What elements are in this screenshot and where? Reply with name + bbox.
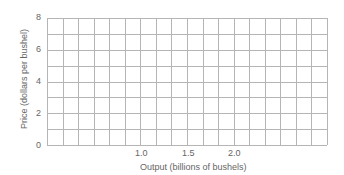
y-tick: 4: [36, 76, 41, 86]
y-tick: 2: [36, 108, 41, 118]
x-tick: 1.0: [135, 148, 148, 158]
chart-grid: [0, 0, 344, 175]
x-axis-label: Output (billions of bushels): [140, 162, 247, 172]
x-tick: 2.0: [228, 148, 241, 158]
y-tick: 0: [36, 140, 41, 150]
x-tick: 1.5: [182, 148, 195, 158]
y-tick: 8: [36, 12, 41, 22]
y-tick: 6: [36, 44, 41, 54]
y-axis-label: Price (dollars per bushel): [19, 29, 29, 129]
